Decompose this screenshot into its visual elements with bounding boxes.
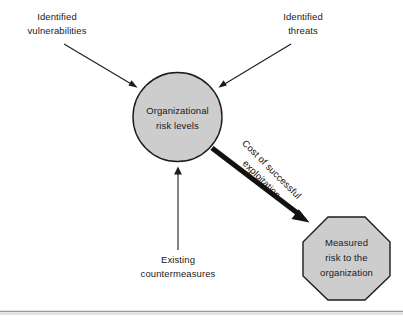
threats-line1: Identified xyxy=(283,11,323,22)
label-existing-countermeasures: Existing countermeasures xyxy=(141,254,216,279)
node-organizational-risk-levels[interactable]: Organizational risk levels xyxy=(133,73,222,162)
countermeasures-line1: Existing xyxy=(161,254,195,265)
octagon-label-line3: organization xyxy=(320,267,373,278)
connector-threats-to-circle xyxy=(218,44,291,88)
vulnerabilities-line2: vulnerabilities xyxy=(27,25,86,36)
octagon-label-line1: Measured xyxy=(325,237,368,248)
circle-label-line2: risk levels xyxy=(156,120,199,131)
label-identified-vulnerabilities: Identified vulnerabilities xyxy=(27,11,86,36)
footer-divider xyxy=(0,312,403,315)
octagon-label-line2: risk to the xyxy=(325,252,367,263)
node-measured-risk[interactable]: Measured risk to the organization xyxy=(303,217,390,300)
connector-vulnerabilities-to-circle xyxy=(64,44,138,88)
label-identified-threats: Identified threats xyxy=(283,11,323,36)
circle-shape xyxy=(133,73,222,162)
diagram-svg: Organizational risk levels Measured risk… xyxy=(0,0,403,320)
threats-line2: threats xyxy=(288,25,318,36)
label-cost-of-successful-exploitation: Cost of successful exploitation xyxy=(230,137,303,210)
connector-countermeasures-to-circle xyxy=(174,167,182,251)
countermeasures-line2: countermeasures xyxy=(141,268,216,279)
vulnerabilities-line1: Identified xyxy=(37,11,77,22)
circle-label-line1: Organizational xyxy=(146,105,209,116)
diagram-canvas: Organizational risk levels Measured risk… xyxy=(0,0,403,320)
